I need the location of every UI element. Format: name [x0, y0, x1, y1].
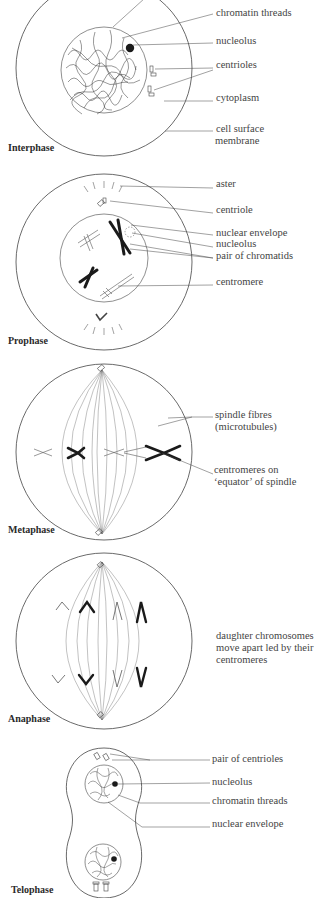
- label-cell-surface-membrane: cell surface: [216, 123, 264, 135]
- label-nucleolus-prophase: nucleolus: [216, 238, 256, 250]
- label-cell-surface-membrane-2: membrane: [215, 135, 259, 147]
- label-nucleolus-telophase: nucleolus: [212, 776, 252, 788]
- phase-title-metaphase: Metaphase: [8, 524, 55, 535]
- anaphase-cell: [16, 553, 192, 729]
- metaphase-cell: [16, 364, 213, 540]
- interphase-cell: [16, 0, 213, 156]
- phase-title-interphase: Interphase: [8, 142, 54, 153]
- label-nuclear-envelope: nuclear envelope: [216, 227, 287, 239]
- telophase-cell: [66, 748, 210, 898]
- label-equator-of-spindle: ‘equator’ of spindle: [214, 476, 296, 488]
- prophase-cell: [16, 174, 213, 350]
- label-centrioles: centrioles: [216, 59, 257, 71]
- label-nuclear-envelope-telophase: nuclear envelope: [212, 818, 283, 830]
- label-centriole: centriole: [216, 204, 253, 216]
- label-centromere: centromere: [216, 276, 263, 288]
- phase-title-prophase: Prophase: [8, 335, 48, 346]
- label-microtubules: (microtubules): [215, 421, 277, 433]
- label-chromatin-threads-telophase: chromatin threads: [212, 795, 288, 807]
- label-pair-of-chromatids: pair of chromatids: [216, 250, 293, 262]
- label-move-apart: move apart led by their: [216, 642, 313, 654]
- label-aster: aster: [216, 178, 236, 190]
- label-chromatin-threads: chromatin threads: [216, 7, 292, 19]
- phase-title-anaphase: Anaphase: [8, 713, 50, 724]
- phase-title-telophase: Telophase: [11, 884, 53, 895]
- label-daughter-chromosomes: daughter chromosomes: [216, 630, 314, 642]
- label-centromeres-on: centromeres on: [214, 464, 278, 476]
- label-nucleolus: nucleolus: [216, 35, 256, 47]
- label-spindle-fibres: spindle fibres: [215, 409, 272, 421]
- label-cytoplasm: cytoplasm: [216, 92, 259, 104]
- label-pair-of-centrioles: pair of centrioles: [212, 753, 283, 765]
- label-centromeres: centromeres: [216, 654, 267, 666]
